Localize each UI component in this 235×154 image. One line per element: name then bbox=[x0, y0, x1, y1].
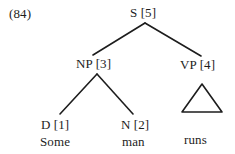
syntax-tree-figure: (84) S [5] NP [3] VP [4] D [1] N [2] Som… bbox=[0, 0, 235, 154]
branch-np-n bbox=[97, 74, 133, 114]
tree-node-np: NP [3] bbox=[76, 57, 111, 71]
branch-s-np bbox=[93, 23, 145, 55]
example-number: (84) bbox=[9, 7, 31, 21]
tree-node-n: N [2] bbox=[121, 118, 149, 132]
terminal-runs: runs bbox=[184, 133, 207, 147]
terminal-man: man bbox=[122, 135, 145, 149]
tree-node-d: D [1] bbox=[41, 118, 69, 132]
tree-node-vp: VP [4] bbox=[180, 58, 215, 72]
terminal-some: Some bbox=[40, 135, 70, 149]
tree-node-s: S [5] bbox=[130, 6, 156, 20]
branch-np-d bbox=[60, 74, 97, 114]
vp-triangle bbox=[182, 84, 222, 112]
tree-branch-lines bbox=[0, 0, 235, 154]
branch-s-vp bbox=[145, 23, 201, 56]
